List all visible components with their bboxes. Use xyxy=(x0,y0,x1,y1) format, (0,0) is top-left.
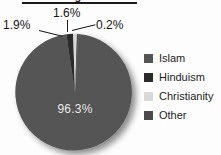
legend-item-christianity[interactable]: Christianity xyxy=(144,87,221,106)
title-underline-rule xyxy=(22,2,137,4)
pie-main-slice-label: 96.3% xyxy=(8,102,142,116)
legend-item-hinduism[interactable]: Hinduism xyxy=(144,68,221,87)
legend-swatch-icon xyxy=(144,54,153,63)
legend-item-label: Islam xyxy=(159,53,185,64)
legend-swatch-icon xyxy=(144,73,153,82)
legend-item-label: Hinduism xyxy=(159,72,205,83)
legend-swatch-icon xyxy=(144,92,153,101)
legend-item-other[interactable]: Other xyxy=(144,106,221,125)
callout-label-other: 0.2% xyxy=(96,18,123,32)
legend-swatch-icon xyxy=(144,111,153,120)
legend-item-label: Christianity xyxy=(159,91,213,102)
legend-item-label: Other xyxy=(159,110,187,121)
pie-svg xyxy=(8,28,142,155)
legend: Islam Hinduism Christianity Other xyxy=(144,49,221,125)
callout-label-christianity: 1.6% xyxy=(53,6,80,20)
pie-chart-figure: Religions xyxy=(0,0,221,155)
callout-label-hinduism: 1.9% xyxy=(3,18,30,32)
legend-item-islam[interactable]: Islam xyxy=(144,49,221,68)
pie-plot-area: 96.3% xyxy=(8,28,142,155)
leader-line-christianity xyxy=(67,20,68,32)
